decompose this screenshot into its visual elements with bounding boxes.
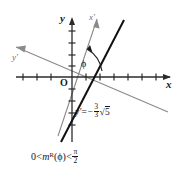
- caption-fraction-numerator: π: [72, 148, 78, 156]
- caption-fraction-denominator: 2: [72, 156, 78, 165]
- caption-rel-right: <: [66, 151, 72, 162]
- fraction-numerator: 3: [94, 104, 100, 111]
- figure-caption: 0<mR(ϕ)<π2: [31, 148, 79, 164]
- radicand-value: 5: [105, 106, 111, 117]
- coordinate-plane-svg: [0, 0, 178, 175]
- x-prime-axis-label: x′: [89, 13, 95, 22]
- y-prime-axis-line: [16, 46, 168, 113]
- y-axis-label: y: [60, 13, 65, 24]
- rotated-axes-figure: y x x′ y′ O ϕ y′=−33√5 0<mR(ϕ)<π2: [0, 0, 178, 175]
- radical-symbol: √: [100, 107, 105, 117]
- phi-angle-label: ϕ: [81, 59, 86, 69]
- caption-fraction: π2: [72, 148, 78, 164]
- y-axis: [69, 17, 76, 142]
- y-axis-arrowhead: [69, 17, 75, 25]
- bold-equation-line: [61, 20, 124, 142]
- fraction-denominator: 3: [94, 111, 100, 119]
- line-equation-label: y′=−33√5: [75, 104, 110, 120]
- equation-fraction: 33: [94, 104, 100, 120]
- y-prime-axis-label: y′: [12, 53, 18, 62]
- x-axis-label: x: [166, 79, 172, 90]
- origin-label: O: [60, 78, 68, 88]
- equation-sign: −: [87, 107, 93, 117]
